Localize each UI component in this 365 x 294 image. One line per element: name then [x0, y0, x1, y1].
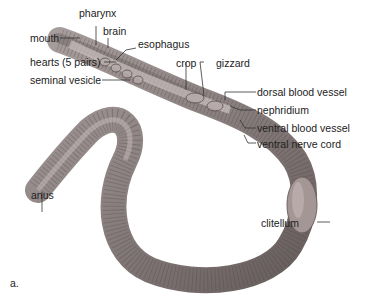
- label-gizzard: gizzard: [216, 57, 250, 69]
- label-mouth: mouth: [30, 32, 59, 44]
- label-crop: crop: [176, 57, 196, 69]
- label-ventral-blood-vessel: ventral blood vessel: [257, 122, 350, 134]
- label-hearts: hearts (5 pairs): [30, 56, 101, 68]
- label-clitellum: clitellum: [261, 217, 299, 229]
- label-seminal-vesicle: seminal vesicle: [30, 74, 101, 86]
- earthworm-diagram: pharynx brain mouth esophagus hearts (5 …: [0, 0, 365, 294]
- label-ventral-nerve-cord: ventral nerve cord: [257, 138, 341, 150]
- label-brain: brain: [103, 25, 126, 37]
- label-anus: anus: [31, 189, 54, 201]
- label-esophagus: esophagus: [138, 38, 189, 50]
- label-dorsal-blood-vessel: dorsal blood vessel: [257, 86, 347, 98]
- panel-label: a.: [10, 277, 19, 289]
- label-pharynx: pharynx: [79, 7, 116, 19]
- label-nephridium: nephridium: [257, 104, 309, 116]
